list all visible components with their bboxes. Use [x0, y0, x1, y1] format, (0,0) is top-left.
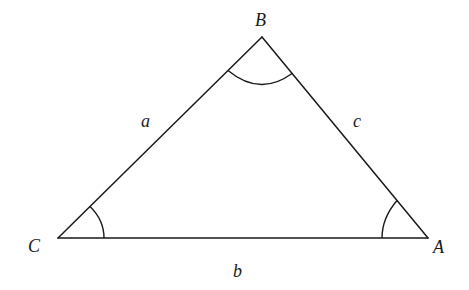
side-b-label: b	[233, 261, 242, 281]
side-c-line	[262, 37, 428, 238]
vertex-a-label: A	[432, 237, 445, 257]
vertex-b-label: B	[255, 10, 266, 30]
side-c-label: c	[353, 111, 361, 131]
vertex-c-label: C	[28, 236, 41, 256]
angle-c-arc	[90, 207, 104, 239]
angle-b-arc	[228, 71, 292, 85]
angle-a-arc	[382, 201, 397, 239]
side-a-label: a	[141, 111, 150, 131]
side-a-line	[58, 37, 262, 238]
triangle-diagram: B C A a c b	[0, 0, 469, 290]
